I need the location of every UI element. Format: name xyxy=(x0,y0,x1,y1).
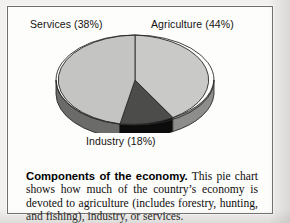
figure-caption: Components of the economy. This pie char… xyxy=(26,170,258,223)
slice-label-services: Services (38%) xyxy=(30,18,103,30)
figure-box: Services (38%) Agriculture (44%) Industr… xyxy=(7,6,273,214)
slice-label-industry: Industry (18%) xyxy=(86,135,156,147)
figure-caption-lead: Components of the economy. xyxy=(26,170,188,182)
slice-label-agriculture: Agriculture (44%) xyxy=(151,18,234,30)
scanned-page-background: Services (38%) Agriculture (44%) Industr… xyxy=(0,0,290,223)
pie-chart: Services (38%) Agriculture (44%) Industr… xyxy=(8,7,274,145)
pie-chart-graphic xyxy=(52,27,218,133)
